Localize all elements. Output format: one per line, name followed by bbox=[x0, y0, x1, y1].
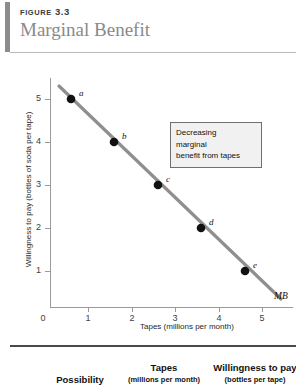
table-col-tapes: Tapes (millions per month) bbox=[118, 362, 210, 385]
callout-box: Decreasing marginal benefit from tapes bbox=[170, 122, 262, 168]
table-col-tapes-label: Tapes bbox=[151, 362, 178, 373]
data-point-label-e: e bbox=[253, 260, 257, 270]
table-col-possibility: Possibility bbox=[40, 374, 120, 386]
chart-plot-area: 5 4 3 2 1 0 1 2 3 4 5 Willingness to pay… bbox=[0, 0, 296, 340]
table-col-tapes-units: (millions per month) bbox=[118, 374, 210, 385]
mb-curve-line bbox=[59, 86, 281, 299]
data-point-d bbox=[197, 224, 206, 233]
data-point-label-a: a bbox=[79, 88, 84, 98]
callout-line-3: benefit from tapes bbox=[176, 150, 256, 162]
table-col-willingness-to-pay-label: Willingness to pay bbox=[213, 362, 296, 373]
data-point-label-d: d bbox=[209, 217, 214, 227]
table-top-rule bbox=[10, 345, 296, 347]
data-point-c bbox=[154, 181, 163, 190]
table-col-willingness-to-pay: Willingness to pay (bottles per tape) bbox=[206, 362, 296, 385]
table-col-possibility-label: Possibility bbox=[56, 374, 104, 385]
table-header-row: Possibility Tapes (millions per month) W… bbox=[10, 352, 296, 389]
mb-curve-label: MB bbox=[274, 291, 288, 301]
marginal-benefit-curve-svg bbox=[0, 0, 296, 340]
data-point-label-c: c bbox=[166, 174, 170, 184]
table-col-willingness-to-pay-units: (bottles per tape) bbox=[206, 374, 296, 385]
data-point-b bbox=[110, 138, 119, 147]
callout-line-1: Decreasing bbox=[176, 127, 256, 139]
data-point-label-b: b bbox=[122, 131, 127, 141]
callout-line-2: marginal bbox=[176, 139, 256, 151]
data-point-a bbox=[67, 95, 76, 104]
data-point-e bbox=[241, 267, 250, 276]
